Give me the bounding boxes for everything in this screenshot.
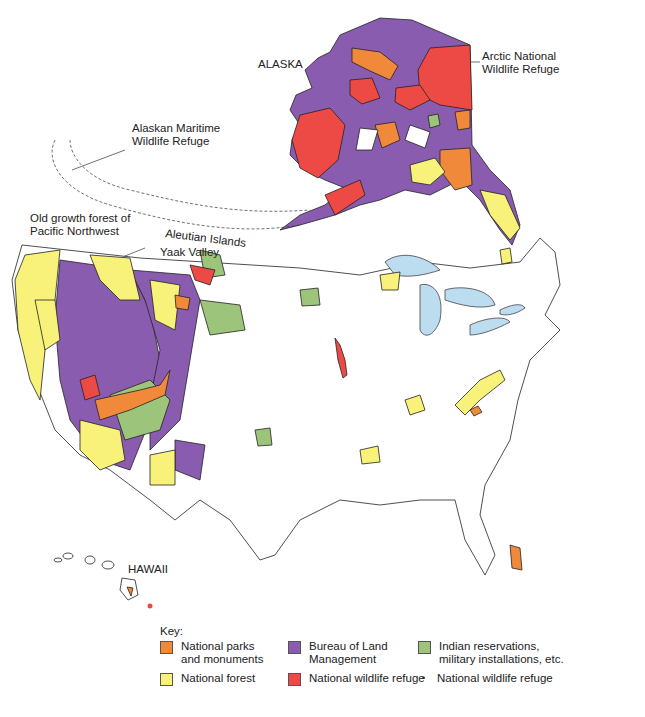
us-lower48-map	[12, 238, 560, 575]
legend-item-blm: Bureau of LandManagement	[288, 640, 388, 666]
legend-item-parks: National parksand monuments	[160, 640, 263, 666]
reservations-swatch-icon	[418, 641, 431, 654]
legend-label: National forest	[181, 672, 255, 685]
label-alaska: ALASKA	[258, 58, 303, 71]
dot-icon: •	[418, 672, 429, 685]
label-arctic-refuge: Arctic National Wildlife Refuge	[482, 50, 559, 76]
legend-item-forest: National forest	[160, 672, 255, 686]
label-line: Alaskan Maritime	[132, 122, 220, 135]
federal-lands-map	[0, 0, 645, 717]
label-line: Wildlife Refuge	[482, 63, 559, 76]
legend-label: military installations, etc.	[439, 653, 564, 666]
legend-label: National wildlife refuge	[309, 672, 425, 685]
label-line: Old growth forest of	[30, 212, 130, 225]
legend-item-refuge-dot: • National wildlife refuge	[418, 672, 553, 685]
legend-label: and monuments	[181, 653, 263, 666]
parks-swatch-icon	[160, 641, 173, 654]
legend-label: National wildlife refuge	[437, 672, 553, 685]
label-line: Wildlife Refuge	[132, 135, 220, 148]
legend-title: Key:	[160, 625, 183, 638]
legend-label: National parks	[181, 640, 263, 653]
legend-label: Bureau of Land	[309, 640, 388, 653]
label-hawaii: HAWAII	[128, 563, 168, 576]
label-line: Pacific Northwest	[30, 225, 130, 238]
legend-item-refuge: National wildlife refuge	[288, 672, 425, 686]
refuge-swatch-icon	[288, 673, 301, 686]
legend-item-reservations: Indian reservations,military installatio…	[418, 640, 564, 666]
legend-label: Indian reservations,	[439, 640, 564, 653]
forest-swatch-icon	[160, 673, 173, 686]
label-yaak-valley: Yaak Valley	[160, 246, 219, 259]
label-old-growth: Old growth forest of Pacific Northwest	[30, 212, 130, 238]
label-line: Arctic National	[482, 50, 559, 63]
label-alaskan-maritime: Alaskan Maritime Wildlife Refuge	[132, 122, 220, 148]
legend-label: Management	[309, 653, 388, 666]
blm-swatch-icon	[288, 641, 301, 654]
hawaii-map	[54, 553, 153, 609]
